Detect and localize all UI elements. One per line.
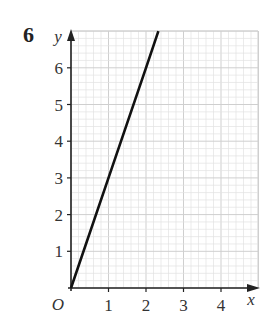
x-tick-label: 3 [179,296,188,315]
x-tick-label: 2 [142,296,151,315]
data-line [71,31,158,288]
y-tick-label: 3 [55,169,64,188]
y-axis-label: y [52,27,62,46]
grid [71,31,259,288]
axes [67,29,260,292]
line-chart: 1234123456Oxy [0,0,276,328]
x-tick-label: 4 [217,296,226,315]
y-tick-label: 2 [55,206,64,225]
origin-label: O [52,295,64,314]
y-tick-label: 5 [55,96,64,115]
y-tick-label: 1 [55,242,64,261]
y-tick-label: 6 [55,59,64,78]
x-tick-label: 1 [104,296,113,315]
y-tick-label: 4 [55,132,64,151]
series [71,31,158,288]
x-axis-label: x [246,290,255,309]
